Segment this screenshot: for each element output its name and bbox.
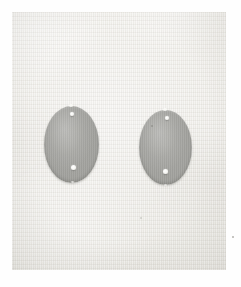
drilled-hole-upper-left bbox=[70, 112, 74, 116]
top-edge-highlight-left bbox=[69, 104, 73, 107]
top-edge-highlight-right bbox=[163, 108, 167, 111]
surface-mark-right bbox=[151, 125, 153, 127]
drilled-hole-lower-right bbox=[163, 169, 168, 174]
oval-object-left bbox=[44, 106, 99, 183]
scanned-photograph: Two gray oval objects on a light woven c… bbox=[0, 0, 241, 287]
drilled-hole-upper-right bbox=[165, 116, 169, 120]
drilled-hole-lower-left bbox=[71, 165, 76, 170]
bottom-edge-highlight-right bbox=[164, 184, 167, 186]
bottom-edge-highlight-left bbox=[71, 181, 74, 183]
speck-lower-center bbox=[140, 217, 142, 219]
speck-lower-right bbox=[232, 236, 234, 238]
